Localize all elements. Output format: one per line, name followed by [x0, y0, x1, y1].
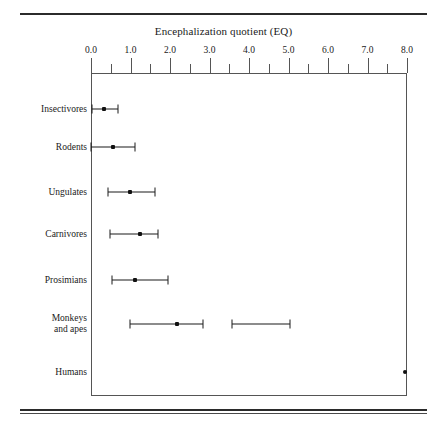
range-bar-cap — [168, 276, 169, 285]
category-label: Prosimians — [5, 275, 91, 286]
encephalization-quotient-figure: Encephalization quotient (EQ) Insectivor… — [0, 0, 447, 426]
x-axis-tick-label: 3.0 — [204, 45, 216, 55]
range-bar-cap — [109, 230, 110, 239]
category-label: Humans — [5, 367, 91, 378]
x-axis — [91, 58, 407, 73]
category-label: Rodents — [5, 142, 91, 153]
divider-bottom-secondary — [20, 413, 427, 414]
range-bar-cap — [154, 188, 155, 197]
x-axis-major-tick — [131, 58, 132, 73]
x-axis-tick-label: 1.0 — [125, 45, 137, 55]
range-bar-cap — [111, 276, 112, 285]
x-axis-major-tick — [91, 58, 92, 73]
x-axis-major-tick — [170, 58, 171, 73]
range-bar — [130, 324, 203, 325]
x-axis-minor-tick — [111, 64, 112, 73]
category-axis-labels: InsectivoresRodentsUngulatesCarnivoresPr… — [0, 0, 91, 426]
data-series-layer — [91, 73, 407, 396]
x-axis-tick-label: 2.0 — [164, 45, 176, 55]
data-point — [111, 145, 115, 149]
range-bar — [110, 234, 158, 235]
range-bar-cap — [134, 143, 135, 152]
data-point — [128, 190, 132, 194]
x-axis-tick-label: 0.0 — [85, 45, 97, 55]
category-label: Monkeysand apes — [5, 313, 91, 335]
category-label: Insectivores — [5, 104, 91, 115]
x-axis-major-tick — [249, 58, 250, 73]
x-axis-major-tick — [407, 58, 408, 73]
category-label: Carnivores — [5, 229, 91, 240]
x-axis-tick-label: 8.0 — [401, 45, 413, 55]
range-bar-cap — [91, 143, 92, 152]
divider-bottom — [20, 409, 427, 411]
x-axis-minor-tick — [229, 64, 230, 73]
x-axis-tick-label: 7.0 — [362, 45, 374, 55]
range-bar — [112, 280, 168, 281]
range-bar-cap — [117, 105, 118, 114]
x-axis-major-tick — [289, 58, 290, 73]
data-point — [175, 322, 179, 326]
x-axis-minor-tick — [190, 64, 191, 73]
range-bar-cap — [107, 188, 108, 197]
data-point — [138, 232, 142, 236]
x-axis-tick-label: 6.0 — [322, 45, 334, 55]
x-axis-minor-tick — [150, 64, 151, 73]
range-bar-cap — [203, 320, 204, 329]
x-axis-major-tick — [210, 58, 211, 73]
x-axis-major-tick — [328, 58, 329, 73]
range-bar-cap — [158, 230, 159, 239]
data-point — [403, 370, 407, 374]
range-bar — [232, 324, 290, 325]
range-bar-cap — [290, 320, 291, 329]
category-label: Ungulates — [5, 187, 91, 198]
x-axis-minor-tick — [387, 64, 388, 73]
x-axis-minor-tick — [348, 64, 349, 73]
x-axis-major-tick — [368, 58, 369, 73]
x-axis-minor-tick — [269, 64, 270, 73]
data-point — [133, 278, 137, 282]
data-point — [102, 107, 106, 111]
range-bar-cap — [232, 320, 233, 329]
x-axis-minor-tick — [308, 64, 309, 73]
x-axis-tick-label: 4.0 — [243, 45, 255, 55]
x-axis-tick-label: 5.0 — [283, 45, 295, 55]
range-bar-cap — [130, 320, 131, 329]
range-bar-cap — [92, 105, 93, 114]
